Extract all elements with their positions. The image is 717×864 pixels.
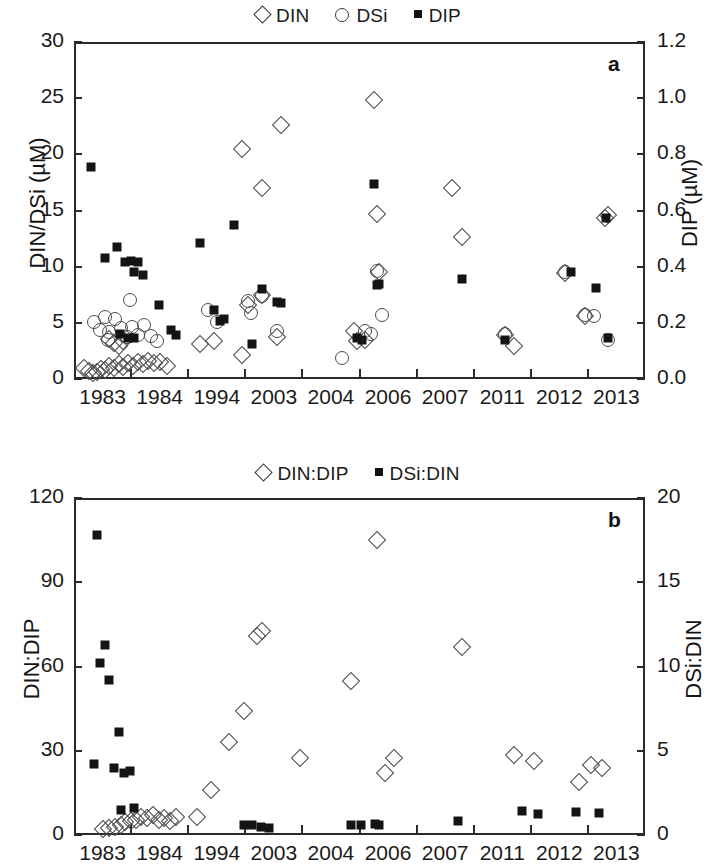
data-point-din [453,228,471,246]
data-point-din-dip [188,808,206,826]
data-point-dip [258,285,267,294]
data-point-dip [603,334,612,343]
data-point-din-dip [385,749,403,767]
y-tick-left [74,666,82,668]
y-tick-right [637,750,645,752]
y-tick-label-left: 30 [0,28,64,52]
legend-label: DIN:DIP [277,463,348,484]
data-point-dsi [375,308,389,322]
y-tick-left [74,378,82,380]
y-tick-label-right: 0.2 [657,309,717,333]
open-diamond-marker-icon [255,464,273,482]
panel-a: DINDSiDIP 0510152025300.00.20.40.60.81.0… [0,0,717,430]
y-tick-label-right: 1.2 [657,28,717,52]
data-point-dip [138,271,147,280]
legend-panel-b: DIN:DIPDSi:DIN [0,462,717,485]
data-point-din [205,332,223,350]
data-point-dsi-din [109,763,118,772]
data-point-dsi-din [346,820,355,829]
y-tick-right [637,322,645,324]
data-point-dip [154,300,163,309]
y-tick-left [74,210,82,212]
data-point-dip [369,179,378,188]
data-point-din-dip [570,772,588,790]
y-tick-right [637,41,645,43]
data-point-din [233,346,251,364]
data-point-din-dip [290,749,308,767]
data-point-din [190,335,208,353]
data-point-dsi-din [453,816,462,825]
axis-bottom-b [74,833,645,835]
data-point-dsi [270,324,284,338]
data-point-din [253,179,271,197]
data-point-dip [195,238,204,247]
y-tick-label-left: 5 [0,309,64,333]
filled-square-marker-icon [375,468,383,476]
x-tick-label: 2013 [574,841,658,864]
data-point-dsi-din [375,820,384,829]
y-tick-right [637,210,645,212]
plot-area-panel-a: 0510152025300.00.20.40.60.81.01.21983198… [74,42,645,379]
data-point-dip [101,254,110,263]
y-tick-label-left: 0 [0,365,64,389]
axis-top-a [74,42,645,44]
data-point-din-dip [235,702,253,720]
data-point-dsi [335,351,349,365]
data-point-dsi [150,334,164,348]
y-tick-right [637,497,645,499]
data-point-dsi-din [92,531,101,540]
data-point-dip [209,306,218,315]
panel-b: DIN:DIPDSi:DIN 0306090120051015201983198… [0,430,717,864]
data-point-dsi-din [114,728,123,737]
legend-panel-a: DINDSiDIP [0,4,717,27]
axis-bottom-a [74,377,645,379]
legend-label: DIP [429,5,461,26]
y-tick-right [637,834,645,836]
data-point-din-dip [504,746,522,764]
x-tick [473,369,475,377]
y-tick-right [637,97,645,99]
data-point-din-dip [376,764,394,782]
x-tick-label: 2013 [574,385,658,409]
data-point-dsi [244,306,258,320]
plot-area-panel-b: 0306090120051015201983198419942003200420… [74,498,645,835]
x-tick [416,825,418,833]
data-point-dsi-din [129,804,138,813]
data-point-dsi-din [595,809,604,818]
data-point-dsi-din [356,820,365,829]
x-tick [416,369,418,377]
y-axis-title-right-a: DIP (µM) [677,113,703,293]
panel-letter-a: a [608,52,620,76]
data-point-dsi-din [95,659,104,668]
data-point-din [271,116,289,134]
y-tick-right [637,266,645,268]
data-point-din [365,91,383,109]
data-point-din [367,205,385,223]
data-point-dip [566,268,575,277]
figure-container: DINDSiDIP 0510152025300.00.20.40.60.81.0… [0,0,717,864]
y-axis-title-left-a: DIN/DSi (µM) [25,103,51,303]
data-point-dip [592,283,601,292]
data-point-din-dip [342,671,360,689]
data-point-din-dip [220,733,238,751]
y-tick-left [74,834,82,836]
data-point-dsi [101,333,115,347]
data-point-dip [133,258,142,267]
y-tick-left [74,97,82,99]
legend-label: DSi [356,5,387,26]
data-point-dip [248,339,257,348]
data-point-dip [112,243,121,252]
x-tick [359,369,361,377]
data-point-dsi-din [533,809,542,818]
data-point-dsi-din [265,824,274,833]
data-point-din-dip [453,638,471,656]
y-tick-right [637,378,645,380]
legend-entry-dsi: DSi [335,4,387,27]
y-tick-label-right: 1.0 [657,84,717,108]
y-tick-left [74,497,82,499]
filled-square-marker-icon [414,10,422,18]
open-diamond-marker-icon [253,6,271,24]
data-point-din [443,179,461,197]
data-point-din-dip [524,751,542,769]
x-tick [530,369,532,377]
